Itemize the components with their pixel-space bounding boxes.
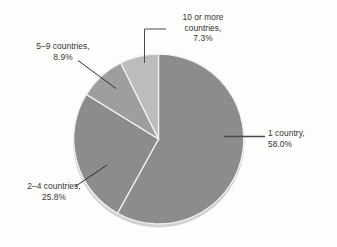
pie-chart-figure: 1 country, 58.0% 10 or more countries, 7… xyxy=(0,0,337,247)
pie-label-1-country: 1 country, 58.0% xyxy=(268,128,305,149)
pie-label-5-9-countries: 5–9 countries, 8.9% xyxy=(22,41,104,62)
pie-label-2-4-countries: 2–4 countries, 25.8% xyxy=(6,181,102,202)
pie-label-10-or-more-countries: 10 or more countries, 7.3% xyxy=(160,12,246,44)
